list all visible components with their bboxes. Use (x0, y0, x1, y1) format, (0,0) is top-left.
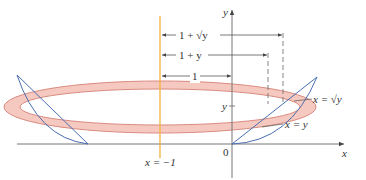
y-axis-label: y (222, 6, 228, 18)
outer-radius-label: 1 + √y (179, 29, 208, 41)
rotation-axis-label: x = −1 (144, 156, 176, 168)
axis-distance-label: 1 (192, 70, 198, 82)
y-tick-label: y (221, 100, 227, 112)
inner-radius-label: 1 + y (179, 49, 202, 61)
line-label: x = y (284, 118, 308, 130)
washer-method-diagram: 1 + √y 1 + y 1 y y x 0 x = −1 x = √y x =… (0, 0, 366, 180)
sqrt-curve-label: x = √y (312, 93, 342, 105)
x-axis-label: x (341, 147, 347, 159)
origin-label: 0 (223, 146, 229, 158)
